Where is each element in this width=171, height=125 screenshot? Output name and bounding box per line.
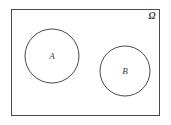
universe-rectangle: [12, 10, 160, 116]
universe-label-omega: Ω: [148, 11, 155, 21]
venn-diagram-figure: A B Ω: [0, 0, 171, 125]
venn-diagram-canvas: A B Ω: [0, 0, 171, 125]
set-label-b: B: [122, 66, 128, 76]
set-label-a: A: [48, 51, 55, 61]
